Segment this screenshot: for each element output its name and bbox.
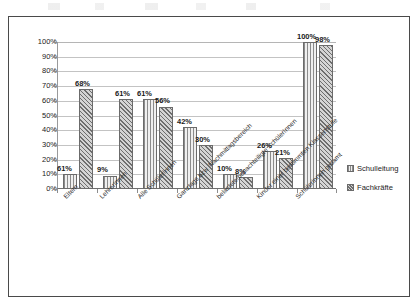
bar-value-label: 98% [315,36,330,44]
bar-schulleitung[interactable] [303,42,317,189]
y-tick-label: 40% [17,126,57,134]
y-tick-label: 10% [17,170,57,178]
legend-item-schulleitung[interactable]: Schulleitung [347,163,418,173]
chart-frame: 100% 90% 80% 70% 60% 50% 40% 30% 20% 10%… [8,16,410,297]
y-tick-label: 70% [17,82,57,90]
bar-value-label: 61% [137,90,152,98]
y-tick-label: 80% [17,67,57,75]
bar-value-label: 61% [115,90,130,98]
y-tick-label: 60% [17,97,57,105]
bar-value-label: 30% [195,136,210,144]
legend-swatch-icon [347,165,354,172]
y-tick-label: 30% [17,141,57,149]
legend-swatch-icon [347,184,354,191]
bar-fachkraefte[interactable] [79,89,93,189]
y-tick-label: 100% [17,38,57,46]
bar-value-label: 61% [57,165,72,173]
scan-artifact-strip [0,3,418,10]
y-tick-label: 50% [17,112,57,120]
bar-value-label: 21% [275,149,290,157]
chart-legend: Schulleitung Fachkräfte [347,163,418,201]
bar-group-eltern: 61% 68% [59,42,99,189]
bar-value-label: 42% [177,118,192,126]
y-tick-label: 20% [17,156,57,164]
legend-label: Fachkräfte [357,183,393,192]
bar-value-label: 9% [97,166,108,174]
bar-value-label: 56% [155,97,170,105]
bar-value-label: 10% [217,165,232,173]
legend-label: Schulleitung [357,164,398,173]
y-tick-label: 90% [17,53,57,61]
bar-value-label: 68% [75,80,90,88]
bar-group-lehrerinnen: 9% 61% [99,42,139,189]
bar-value-label: 100% [297,33,316,41]
x-axis-category-labels: Eltern LehrerInnen Alle SchülerInnen Gan… [9,189,418,306]
legend-item-fachkraefte[interactable]: Fachkräfte [347,182,418,192]
